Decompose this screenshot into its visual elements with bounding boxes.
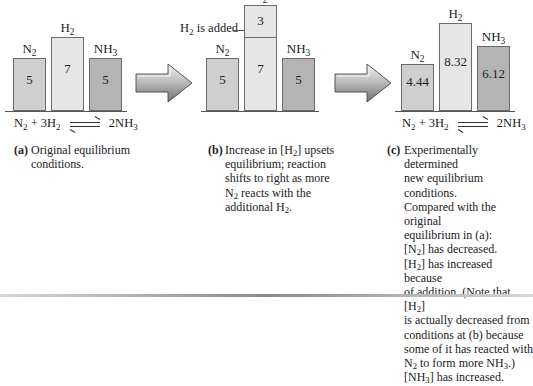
- bar-c-n2: 4.44: [401, 64, 434, 111]
- bar-value: 5: [207, 72, 238, 88]
- equation-a: N2 + 3H2 2NH3: [14, 116, 138, 131]
- bar-a-n2: 5: [13, 58, 46, 111]
- bar-value: 7: [52, 61, 83, 77]
- species-label-n2: N2: [13, 41, 46, 57]
- baseline-a: [5, 111, 127, 112]
- species-label-h2: H2: [439, 6, 472, 22]
- species-label-nh3: NH3: [474, 29, 513, 45]
- species-label-h2: H2: [51, 20, 84, 36]
- right-arrow-icon: [333, 62, 393, 104]
- caption-b: (b) Increase in [H2] upsets equilibrium;…: [208, 143, 358, 214]
- bottom-divider: [0, 294, 533, 297]
- species-label-n2: N2: [401, 47, 434, 63]
- species-label-n2: N2: [206, 41, 239, 57]
- bar-b-nh3: 5: [282, 58, 315, 111]
- bar-value: 5: [90, 72, 121, 88]
- bar-c-nh3: 6.12: [477, 46, 510, 111]
- bar-c-h2: 8.32: [439, 23, 472, 111]
- baseline-c: [395, 111, 515, 112]
- species-label-nh3: NH3: [279, 41, 318, 57]
- bar-value: 5: [14, 72, 45, 88]
- caption-a: (a) Original equilibrium conditions.: [14, 143, 164, 171]
- right-arrow-icon: [134, 62, 194, 104]
- bar-value: 6.12: [478, 66, 509, 82]
- bar-value: 5: [283, 72, 314, 88]
- bar-value: 3: [245, 13, 276, 29]
- bar-a-nh3: 5: [89, 58, 122, 111]
- equation-c: N2 + 3H2 2NH3: [402, 116, 526, 131]
- bar-value: 7: [245, 61, 276, 77]
- equilibrium-arrow-icon: [70, 121, 100, 128]
- h2-added-annotation: H2 is added: [180, 21, 238, 36]
- species-label-h2: H2: [244, 0, 277, 4]
- bar-value: 4.44: [402, 74, 433, 90]
- caption-c: (c) Experimentally determined new equili…: [387, 143, 533, 384]
- bar-b-n2: 5: [206, 58, 239, 111]
- baseline-b: [201, 111, 319, 112]
- bar-a-h2: 7: [51, 37, 84, 111]
- bar-value: 8.32: [440, 54, 471, 70]
- species-label-nh3: NH3: [86, 41, 125, 57]
- annotation-leader-line: [234, 30, 244, 31]
- bar-b-h2-added: 3: [244, 5, 277, 38]
- equilibrium-arrow-icon: [458, 121, 488, 128]
- bar-b-h2: 7: [244, 37, 277, 111]
